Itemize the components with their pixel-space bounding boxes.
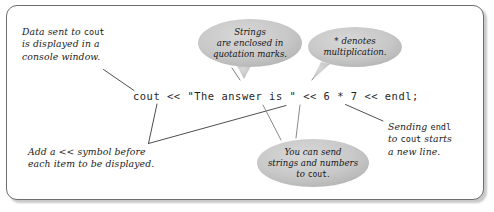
send-callout-text: You can send strings and numbers to cout… — [257, 147, 369, 181]
inline-code-cout: cout — [308, 170, 327, 179]
strings-callout-line3: quotation marks. — [198, 49, 302, 60]
annotation-right: Sending endl to cout starts a new line. — [388, 121, 452, 158]
send-callout-line2: strings and numbers — [257, 158, 369, 169]
annotation-top-left-line1: Data sent to cout — [22, 26, 104, 38]
annotation-right-line2: to cout starts — [388, 133, 452, 145]
text-fragment: Sending — [388, 121, 430, 132]
multiplication-callout-line2: multiplication. — [308, 47, 402, 58]
text-fragment: starts — [421, 133, 452, 144]
annotation-right-line3: a new line. — [388, 146, 452, 158]
text-fragment: . — [327, 169, 330, 179]
annotation-bottom-left-line2: each item to be displayed. — [28, 158, 154, 170]
strings-callout-text: Strings are enclosed in quotation marks. — [198, 27, 302, 61]
inline-code-endl: endl — [430, 122, 451, 132]
strings-callout-line2: are enclosed in — [198, 38, 302, 49]
figure-container: cout << "The answer is " << 6 * 7 << end… — [0, 0, 494, 212]
text-fragment: Data sent to — [22, 26, 84, 37]
multiplication-callout-text: * denotes multiplication. — [308, 36, 402, 58]
strings-callout-line1: Strings — [198, 27, 302, 38]
text-fragment: to — [388, 133, 401, 144]
multiplication-callout-line1: * denotes — [308, 36, 402, 47]
annotation-bottom-left: Add a << symbol before each item to be d… — [28, 146, 154, 171]
annotation-top-left-line3: console window. — [22, 51, 104, 63]
send-callout-line1: You can send — [257, 147, 369, 158]
send-callout-line3: to cout. — [257, 169, 369, 180]
annotation-bottom-left-line1: Add a << symbol before — [28, 146, 154, 158]
annotation-right-line1: Sending endl — [388, 121, 452, 133]
annotation-top-left-line2: is displayed in a — [22, 38, 104, 50]
code-statement: cout << "The answer is " << 6 * 7 << end… — [133, 90, 419, 102]
text-fragment: to — [296, 169, 307, 179]
inline-code-cout: cout — [401, 134, 422, 144]
annotation-top-left: Data sent to cout is displayed in a cons… — [22, 26, 104, 63]
inline-code-cout: cout — [84, 27, 105, 37]
